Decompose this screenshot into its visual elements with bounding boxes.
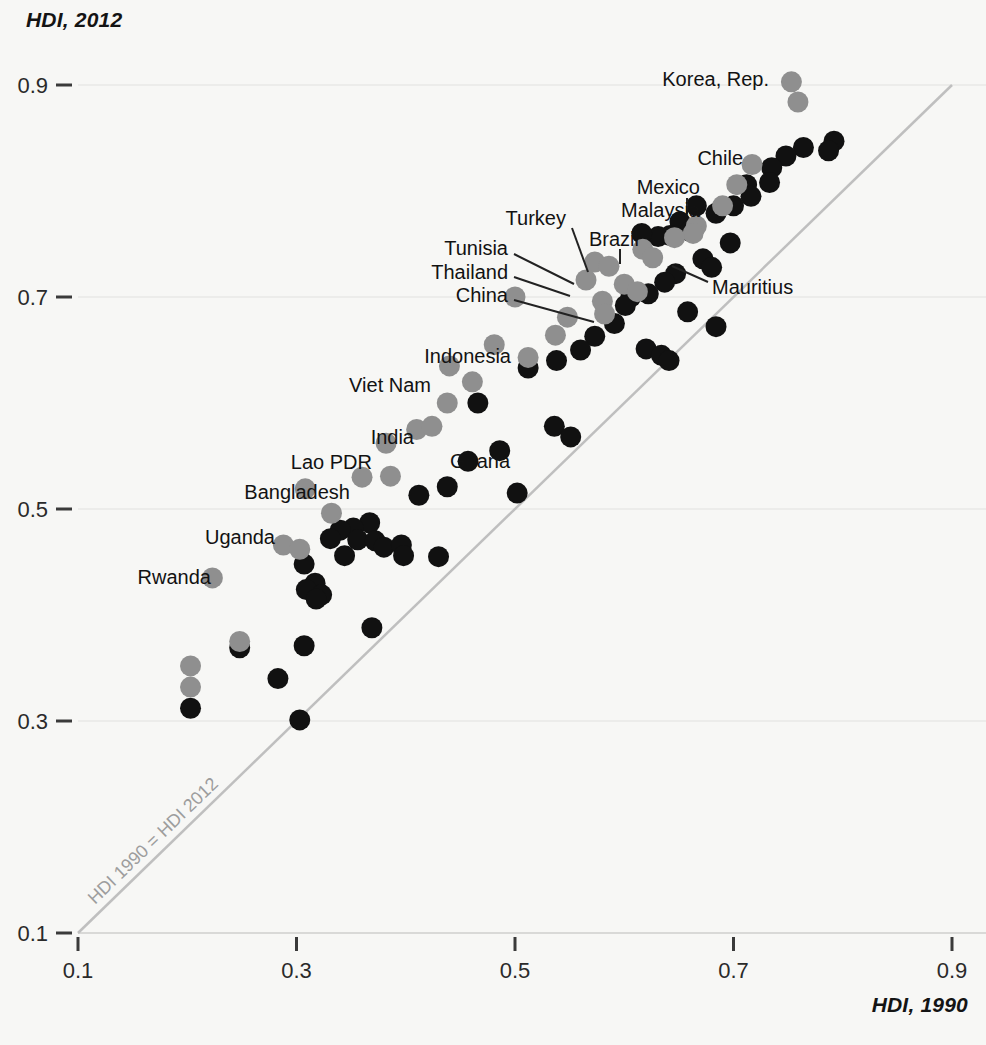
scatter-plot-canvas: 0.10.30.50.70.90.10.30.50.70.9HDI 1990 =… (0, 0, 986, 1045)
point-label-china: China (456, 284, 508, 307)
data-point-highlighted-31 (321, 503, 342, 524)
data-point-ghana (421, 416, 442, 437)
data-point-tunisia (576, 270, 597, 291)
data-point-highlighted-33 (289, 539, 310, 560)
data-point-other-32 (546, 350, 567, 371)
reference-line-label: HDI 1990 = HDI 2012 (84, 774, 222, 908)
data-point-other-40 (507, 483, 528, 504)
data-point-other-1 (818, 140, 839, 161)
data-point-other-41 (408, 485, 429, 506)
point-label-uganda: Uganda (205, 526, 275, 549)
leader-line-8 (514, 300, 594, 322)
data-point-other-52 (428, 546, 449, 567)
data-point-other-5 (759, 172, 780, 193)
x-tick-label-0: 0.1 (63, 958, 94, 983)
data-point-other-62 (180, 698, 201, 719)
data-point-highlighted-19 (545, 325, 566, 346)
data-point-highlighted-21 (518, 347, 539, 368)
data-point-highlighted-23 (462, 371, 483, 392)
data-point-other-26 (706, 316, 727, 337)
point-label-mexico: Mexico (637, 176, 700, 199)
data-point-other-25 (677, 301, 698, 322)
point-label-india: India (371, 426, 414, 449)
point-label-lao-pdr: Lao PDR (291, 451, 372, 474)
y-tick-label-2: 0.5 (17, 497, 48, 522)
data-point-highlighted-16 (594, 303, 615, 324)
point-label-korea-rep: Korea, Rep. (662, 68, 769, 91)
point-label-tunisia: Tunisia (444, 237, 508, 260)
leader-line-5 (572, 228, 588, 272)
point-label-bangladesh: Bangladesh (244, 481, 350, 504)
point-label-rwanda: Rwanda (138, 566, 211, 589)
data-point-highlighted-1 (787, 91, 808, 112)
data-point-highlighted-35 (229, 631, 250, 652)
x-tick-label-1: 0.3 (281, 958, 312, 983)
data-point-highlighted-37 (180, 677, 201, 698)
data-point-other-31 (659, 350, 680, 371)
point-label-ghana: Ghana (450, 450, 510, 473)
data-point-highlighted-29 (380, 466, 401, 487)
y-tick-label-3: 0.7 (17, 285, 48, 310)
data-point-chile (742, 154, 763, 175)
point-label-mauritius: Mauritius (712, 276, 793, 299)
data-point-other-45 (320, 528, 341, 549)
data-point-highlighted-11 (598, 256, 619, 277)
x-tick-label-2: 0.5 (500, 958, 531, 983)
data-point-other-59 (294, 635, 315, 656)
data-point-highlighted-9 (642, 247, 663, 268)
data-point-other-34 (467, 393, 488, 414)
point-label-malaysia: Malaysia (621, 199, 700, 222)
data-point-other-28 (570, 340, 591, 361)
y-tick-label-4: 0.9 (17, 73, 48, 98)
point-label-thailand: Thailand (431, 261, 508, 284)
y-tick-label-0: 0.1 (17, 921, 48, 946)
data-point-highlighted-36 (180, 655, 201, 676)
point-label-viet-nam: Viet Nam (349, 374, 431, 397)
point-label-turkey: Turkey (506, 207, 566, 230)
data-point-other-16 (720, 232, 741, 253)
data-point-highlighted-24 (437, 393, 458, 414)
data-point-highlighted-7 (664, 227, 685, 248)
data-point-other-50 (393, 545, 414, 566)
data-point-other-58 (361, 617, 382, 638)
x-tick-label-3: 0.7 (718, 958, 749, 983)
data-point-korea-rep (781, 71, 802, 92)
data-point-highlighted-14 (627, 281, 648, 302)
y-tick-label-1: 0.3 (17, 709, 48, 734)
data-point-other-61 (267, 668, 288, 689)
data-point-other-63 (289, 709, 310, 730)
data-point-malaysia (683, 223, 704, 244)
point-label-brazil: Brazil (589, 228, 639, 251)
point-label-chile: Chile (697, 147, 743, 170)
x-tick-label-4: 0.9 (937, 958, 968, 983)
chart-figure: HDI, 2012 HDI, 1990 0.10.30.50.70.90.10.… (0, 0, 986, 1045)
data-point-highlighted-4 (712, 195, 733, 216)
data-point-other-57 (306, 589, 327, 610)
data-point-highlighted-3 (726, 174, 747, 195)
data-point-other-39 (437, 476, 458, 497)
data-point-other-36 (560, 426, 581, 447)
point-label-indonesia: Indonesia (424, 345, 511, 368)
data-point-other-51 (334, 545, 355, 566)
